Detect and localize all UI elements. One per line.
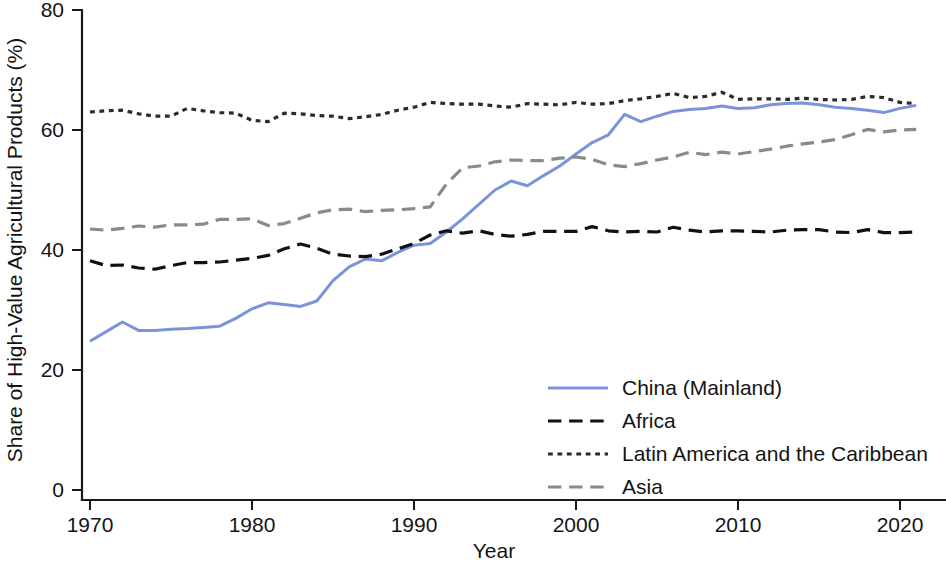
y-tick-label-60: 60: [41, 118, 64, 141]
x-tick-label-1990: 1990: [391, 513, 438, 536]
series-line-latin-america-and-the-caribbean: [90, 92, 916, 121]
line-chart: 806040200 197019801990200020102020 Year …: [0, 0, 946, 566]
legend-label-0: China (Mainland): [622, 376, 782, 399]
data-series-group: [90, 92, 916, 341]
y-tick-label-80: 80: [41, 0, 64, 21]
y-tick-label-20: 20: [41, 358, 64, 381]
x-tick-label-2020: 2020: [877, 513, 924, 536]
y-tick-label-0: 0: [52, 478, 64, 501]
x-tick-label-2010: 2010: [715, 513, 762, 536]
y-axis-ticks: 806040200: [41, 0, 82, 501]
legend-label-3: Asia: [622, 475, 663, 498]
x-tick-label-1970: 1970: [67, 513, 114, 536]
chart-legend: China (Mainland)AfricaLatin America and …: [548, 376, 928, 498]
x-axis-ticks: 197019801990200020102020: [67, 500, 924, 536]
x-tick-label-2000: 2000: [553, 513, 600, 536]
series-line-asia: [90, 129, 916, 230]
series-line-china-mainland: [90, 103, 916, 341]
chart-container: 806040200 197019801990200020102020 Year …: [0, 0, 946, 566]
series-line-africa: [90, 227, 916, 270]
legend-label-2: Latin America and the Caribbean: [622, 442, 928, 465]
x-axis-title: Year: [473, 539, 515, 562]
y-axis-title: Share of High-Value Agricultural Product…: [3, 38, 26, 462]
legend-label-1: Africa: [622, 409, 676, 432]
y-tick-label-40: 40: [41, 238, 64, 261]
x-axis-group: 197019801990200020102020: [67, 500, 946, 536]
y-axis-group: 806040200: [41, 0, 82, 501]
x-tick-label-1980: 1980: [229, 513, 276, 536]
